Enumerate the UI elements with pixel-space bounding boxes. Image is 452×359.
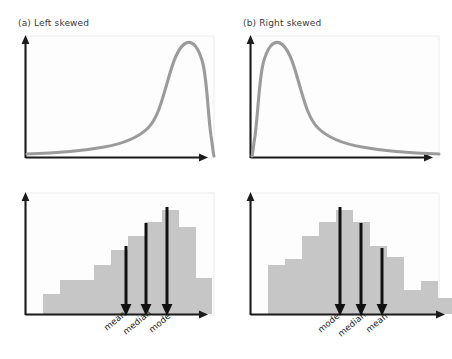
bar [404, 290, 421, 314]
right-skewed-histogram-svg: mode median mean [237, 185, 452, 359]
bar [421, 281, 438, 314]
panel-left-skewed-density: (a) Left skewed [12, 14, 227, 166]
bar [196, 278, 212, 314]
bar [43, 294, 60, 314]
bar [162, 210, 179, 314]
bar [387, 257, 404, 314]
bar [60, 280, 77, 314]
bar [370, 246, 387, 314]
panel-right-skewed-density: (b) Right skewed [237, 14, 452, 166]
bar [319, 222, 336, 314]
bar [179, 227, 196, 314]
panel-title-left-skewed: (a) Left skewed [18, 18, 89, 29]
bar [128, 236, 145, 314]
bar [94, 265, 111, 314]
bar [145, 222, 162, 314]
plot-frame [251, 36, 439, 158]
plot-frame [26, 36, 214, 158]
bar [268, 265, 285, 314]
left-skewed-density-svg [12, 14, 227, 166]
panel-title-right-skewed: (b) Right skewed [243, 18, 321, 29]
right-skewed-density-svg [237, 14, 452, 166]
panel-right-skewed-histogram: mode median mean [237, 185, 452, 359]
panel-left-skewed-histogram: mean median mode [12, 185, 227, 359]
bar [285, 259, 302, 314]
bar [438, 298, 452, 314]
left-skewed-histogram-svg: mean median mode [12, 185, 227, 359]
bar [302, 236, 319, 314]
bar [77, 280, 94, 314]
